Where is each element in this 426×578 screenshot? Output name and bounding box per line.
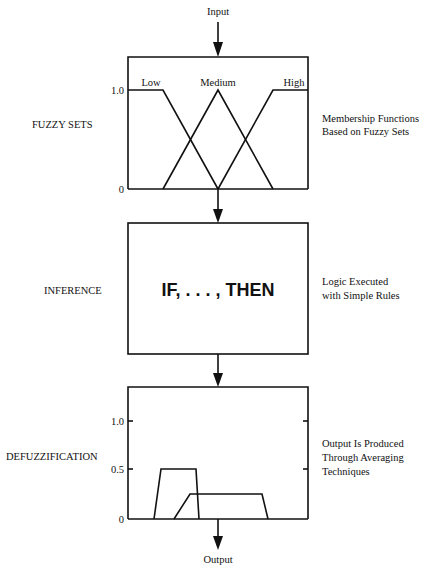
defuzz-tick-1-0: 1.0	[111, 416, 124, 427]
tick-1-0: 1.0	[111, 85, 124, 96]
defuzz-desc-line2: Through Averaging	[322, 452, 404, 463]
defuzz-tick-0-5: 0.5	[111, 464, 124, 475]
inference-desc-line1: Logic Executed	[322, 276, 389, 287]
stage-label-fuzzy-sets: FUZZY SETS	[32, 119, 93, 130]
defuzz-frame	[128, 387, 308, 519]
set-label-medium: Medium	[200, 77, 236, 88]
rule-text: IF, . . . , THEN	[161, 280, 274, 300]
membership-low	[128, 90, 218, 189]
set-label-low: Low	[141, 77, 161, 88]
input-label: Input	[207, 6, 229, 17]
arrow-head-fuzzy-to-inference	[213, 209, 223, 223]
fuzzy-sets-desc-line2: Based on Fuzzy Sets	[322, 126, 409, 137]
defuzz-desc-line3: Techniques	[322, 466, 370, 477]
output-set-2	[174, 494, 268, 519]
defuzz-tick-0: 0	[119, 514, 124, 525]
membership-medium	[163, 90, 273, 189]
fuzzy-sets-box: 1.0 0 Low Medium High	[111, 57, 308, 195]
stage-label-defuzzification: DEFUZZIFICATION	[6, 451, 98, 462]
inference-desc-line2: with Simple Rules	[322, 290, 400, 301]
stage-label-inference: INFERENCE	[44, 285, 102, 296]
input-arrow-head	[213, 42, 223, 57]
tick-0: 0	[119, 184, 124, 195]
defuzz-desc-line1: Output Is Produced	[322, 438, 404, 449]
fuzzy-logic-diagram: Input 1.0 0 Low Medium High FUZZY SETS M…	[0, 0, 426, 578]
fuzzy-sets-desc-line1: Membership Functions	[322, 113, 419, 124]
output-label: Output	[203, 554, 232, 565]
defuzzification-box: 1.0 0.5 0	[111, 387, 308, 525]
membership-high	[218, 90, 308, 189]
arrow-head-inference-to-defuzz	[213, 373, 223, 387]
output-arrow-head	[213, 536, 223, 550]
set-label-high: High	[284, 77, 306, 88]
